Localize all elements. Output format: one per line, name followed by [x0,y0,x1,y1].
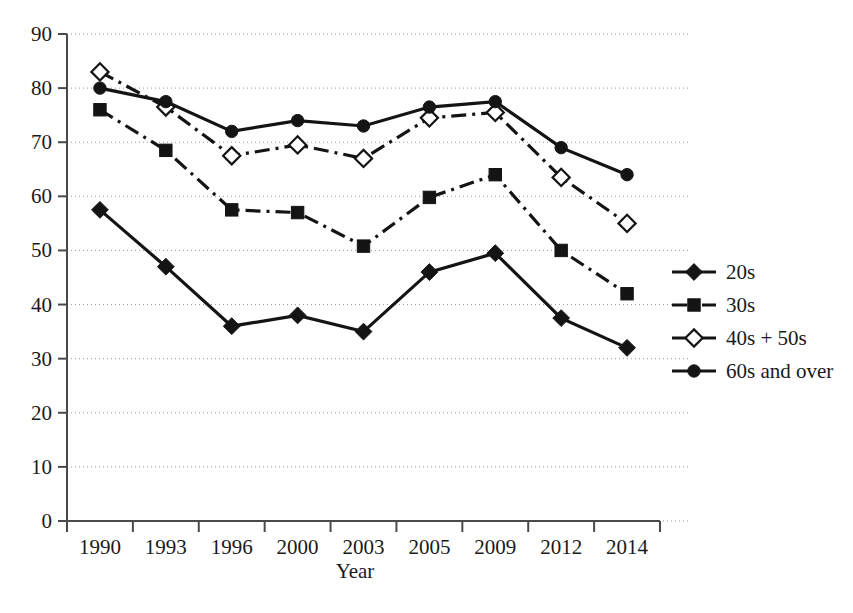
filled-square-marker [688,299,700,311]
x-tick-label: 1990 [79,535,121,559]
y-tick-label: 50 [31,238,52,262]
filled-circle-marker [226,125,238,137]
series-20s [92,201,636,356]
filled-circle-marker [94,82,106,94]
filled-circle-marker [489,95,501,107]
series-line [100,72,627,224]
y-tick-label: 0 [42,509,53,533]
filled-square-marker [226,204,238,216]
legend-label: 20s [726,260,755,284]
open-diamond-marker [355,150,372,167]
x-tick-label: 2003 [343,535,385,559]
filled-square-marker [489,168,501,180]
open-diamond-marker [223,147,240,164]
legend-label: 40s + 50s [726,326,807,350]
line-chart: 0102030405060708090 19901993199620002003… [0,0,853,613]
y-tick-label: 90 [31,22,52,46]
y-tick-label: 70 [31,130,52,154]
filled-circle-marker [160,95,172,107]
filled-circle-marker [621,168,633,180]
legend-label: 60s and over [726,359,833,383]
filled-circle-marker [423,101,435,113]
filled-diamond-marker [289,307,306,324]
filled-circle-marker [688,365,700,377]
legend-item-20s[interactable]: 20s [672,260,755,284]
open-diamond-marker [91,63,108,80]
x-tick-label: 1993 [145,535,187,559]
filled-circle-marker [555,141,567,153]
filled-square-marker [94,104,106,116]
filled-square-marker [555,244,567,256]
y-tick-label: 60 [31,184,52,208]
y-axis-tick-labels: 0102030405060708090 [31,22,52,533]
y-tick-label: 20 [31,401,52,425]
x-tick-label: 2005 [408,535,450,559]
y-tick-label: 10 [31,455,52,479]
x-axis-tick-labels: 199019931996200020032005200920122014 [79,535,649,559]
y-tick-label: 30 [31,347,52,371]
legend-item-60s-and-over[interactable]: 60s and over [672,359,833,383]
filled-diamond-marker [686,264,703,281]
y-tick-label: 80 [31,76,52,100]
filled-square-marker [621,288,633,300]
filled-square-marker [291,206,303,218]
chart-canvas: 0102030405060708090 19901993199620002003… [0,0,853,613]
x-tick-label: 2000 [277,535,319,559]
x-tick-label: 2012 [540,535,582,559]
filled-circle-marker [291,114,303,126]
filled-circle-marker [357,120,369,132]
x-tick-label: 2014 [606,535,649,559]
legend-item-40s-50s[interactable]: 40s + 50s [672,326,807,350]
filled-diamond-marker [619,339,636,356]
legend-label: 30s [726,293,755,317]
open-diamond-marker [618,215,635,232]
x-tick-label: 1996 [211,535,253,559]
open-diamond-marker [685,329,702,346]
y-tick-label: 40 [31,293,52,317]
filled-square-marker [160,144,172,156]
x-axis-title: Year [336,559,375,583]
filled-square-marker [423,191,435,203]
legend: 20s30s40s + 50s60s and over [672,260,833,383]
data-series [91,63,635,356]
open-diamond-marker [289,136,306,153]
filled-square-marker [357,240,369,252]
series-30s [94,104,634,300]
x-tick-label: 2009 [474,535,516,559]
axes [58,34,660,532]
legend-item-30s[interactable]: 30s [672,293,755,317]
